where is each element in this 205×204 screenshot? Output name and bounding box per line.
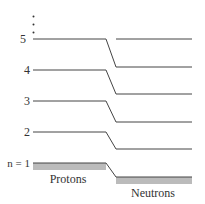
level-label-5: 5 (20, 32, 26, 46)
level-label-2: 2 (24, 125, 30, 139)
neutron-filled-band (116, 177, 192, 184)
level-4-line (33, 70, 192, 94)
energy-level-diagram: 5 4 3 2 n = 1 Protons Neutrons (0, 0, 205, 204)
level-label-1: n = 1 (7, 157, 30, 169)
level-label-3: 3 (24, 94, 30, 108)
level-2-line (33, 132, 192, 149)
level-3-line (33, 101, 192, 122)
proton-filled-band (33, 163, 106, 170)
neutrons-label: Neutrons (131, 186, 175, 200)
level-label-4: 4 (24, 63, 30, 77)
level-5-line (33, 39, 192, 67)
ellipsis-dots (33, 16, 35, 34)
protons-label: Protons (50, 172, 87, 186)
level-lines (33, 39, 192, 177)
